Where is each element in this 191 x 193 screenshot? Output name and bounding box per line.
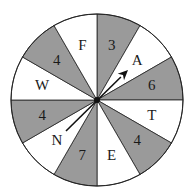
sector-label: A — [132, 52, 143, 68]
sector-label: E — [107, 147, 116, 163]
sector-label: N — [51, 132, 62, 148]
sector-label: 4 — [133, 132, 141, 148]
sector-label: 7 — [79, 147, 87, 163]
sector-label: 6 — [148, 77, 156, 93]
sector-label: T — [147, 107, 156, 123]
center-hub — [94, 97, 100, 103]
sector-label: 4 — [53, 52, 61, 68]
spinner-wheel: 3A6T4E7N4W4F — [0, 0, 191, 193]
sector-label: 4 — [38, 107, 46, 123]
sector-label: 3 — [108, 37, 116, 53]
sector-label: W — [35, 77, 50, 93]
sector-label: F — [78, 37, 86, 53]
